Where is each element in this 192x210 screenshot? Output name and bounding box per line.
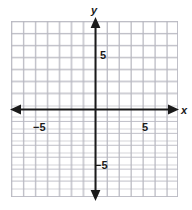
arrow-right-icon: [168, 105, 179, 115]
arrow-down-icon: [91, 190, 101, 201]
axis-lines-and-arrows: [0, 0, 192, 210]
coordinate-plane-figure: −5 5 5 −5 y x: [0, 0, 192, 210]
x-axis-tick-label-positive-five: 5: [142, 122, 148, 133]
y-axis-label: y: [91, 5, 97, 16]
arrow-left-icon: [10, 105, 21, 115]
x-axis-tick-label-negative-five: −5: [33, 122, 46, 133]
x-axis-label: x: [181, 105, 187, 116]
arrow-up-icon: [91, 17, 101, 28]
y-axis-tick-label-negative-five: −5: [95, 160, 108, 171]
y-axis-tick-label-positive-five: 5: [100, 50, 106, 61]
